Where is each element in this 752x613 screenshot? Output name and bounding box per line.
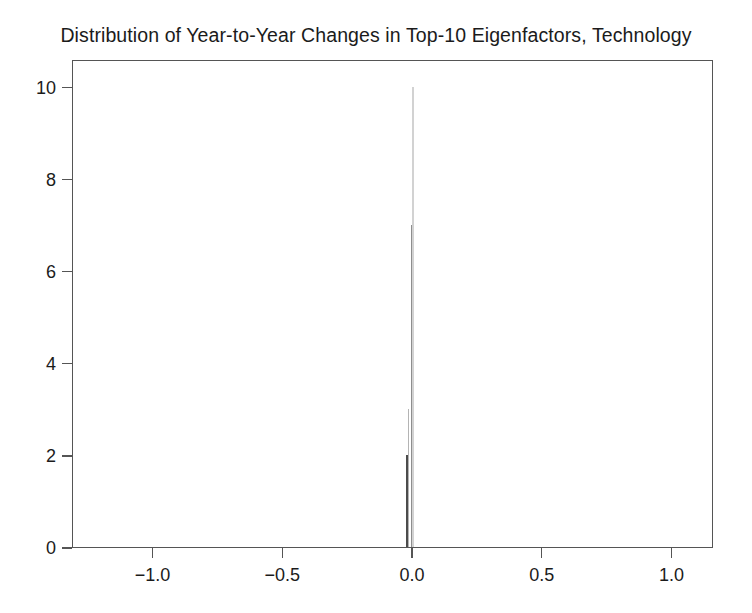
x-axis-tick	[541, 548, 542, 558]
y-axis-tick-label: 2	[12, 447, 56, 465]
plot-frame	[72, 60, 713, 548]
y-axis-tick	[62, 179, 72, 180]
y-axis-tick-label: 0	[12, 539, 56, 557]
chart-title: Distribution of Year-to-Year Changes in …	[0, 24, 752, 47]
x-axis-tick	[152, 548, 153, 558]
x-axis-tick-label: −1.0	[112, 566, 192, 584]
y-axis-tick	[62, 87, 72, 88]
y-axis-tick	[62, 547, 72, 548]
y-axis-tick	[62, 363, 72, 364]
y-axis-tick	[62, 455, 72, 456]
plot-area	[73, 61, 712, 547]
chart-figure: Distribution of Year-to-Year Changes in …	[0, 0, 752, 613]
histogram-bar	[412, 87, 414, 547]
y-axis-tick-label: 8	[12, 171, 56, 189]
y-axis-tick-label: 4	[12, 355, 56, 373]
histogram-bar	[408, 409, 410, 547]
x-axis-tick-label: 0.0	[372, 566, 452, 584]
y-axis-tick	[62, 271, 72, 272]
y-axis-tick-label: 10	[12, 79, 56, 97]
x-axis-tick-label: 1.0	[631, 566, 711, 584]
x-axis-tick	[411, 548, 412, 558]
x-axis-tick-label: 0.5	[502, 566, 582, 584]
x-axis-tick	[282, 548, 283, 558]
y-axis-tick-label: 6	[12, 263, 56, 281]
x-axis-tick	[671, 548, 672, 558]
x-axis-tick-label: −0.5	[242, 566, 322, 584]
